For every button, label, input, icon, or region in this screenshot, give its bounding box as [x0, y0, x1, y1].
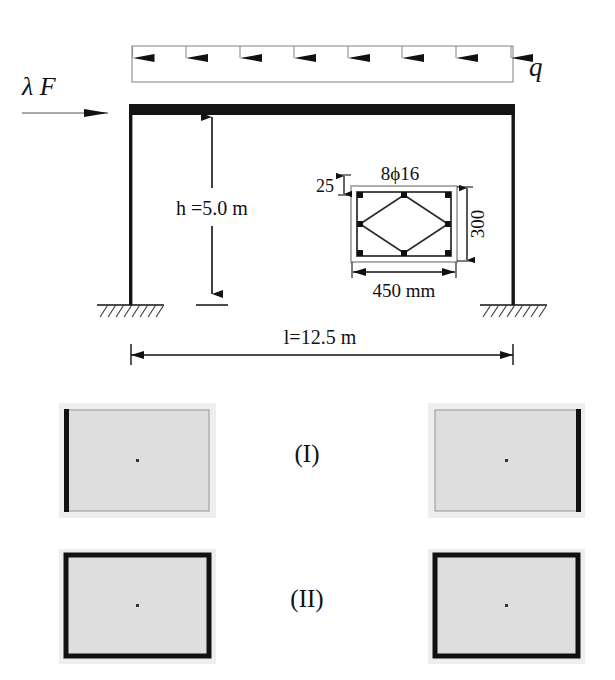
width-dimension-label: 450 mm — [373, 280, 436, 301]
rebar-bottom-left — [357, 250, 363, 256]
distributed-load-group: q — [132, 46, 543, 82]
span-dimension-label: l=12.5 m — [284, 326, 357, 348]
left-panel-row-2 — [59, 549, 216, 664]
right-panel-row-2 — [428, 549, 585, 664]
rebar-bottom-right — [445, 250, 451, 256]
result-row-1: (I) — [59, 403, 585, 518]
frame-right-column — [512, 112, 515, 305]
result-row-2: (II) — [59, 549, 585, 664]
distributed-load-label: q — [529, 52, 543, 82]
rebar-bottom-mid — [401, 250, 407, 256]
depth-dimension: 300 — [457, 187, 488, 261]
rebar-label: 8ϕ16 — [381, 163, 420, 184]
rebar-mid-left — [357, 221, 363, 227]
rebar-top-left — [357, 192, 363, 198]
rebar-top-right — [445, 192, 451, 198]
row-2-label: (II) — [290, 585, 323, 613]
left-fixed-support — [97, 305, 164, 317]
right-panel-row-1-thick-edge — [576, 409, 581, 512]
lateral-force-label: λ F — [21, 72, 57, 101]
section-rebars — [357, 192, 451, 256]
rebar-top-mid — [401, 192, 407, 198]
depth-dimension-label: 300 — [467, 210, 488, 239]
right-fixed-support — [480, 305, 547, 317]
right-panel-row-2-center-dot — [505, 604, 508, 607]
section-diamond-tie — [360, 195, 448, 253]
left-support-hatching — [100, 306, 164, 318]
section-stirrup — [357, 192, 451, 256]
frame-beam — [129, 104, 515, 115]
height-dimension: h =5.0 m — [176, 117, 248, 305]
left-panel-row-1-thick-edge — [64, 409, 69, 512]
right-panel-row-1-center-dot — [505, 459, 508, 462]
left-panel-row-1 — [59, 403, 216, 518]
engineering-figure: q λ F — [0, 0, 615, 680]
left-panel-row-2-center-dot — [136, 604, 139, 607]
frame-left-column — [129, 112, 132, 305]
right-support-hatching — [483, 306, 547, 318]
right-panel-row-1 — [428, 403, 585, 518]
cover-dimension: 25 — [316, 175, 351, 196]
figure-root: q λ F — [0, 0, 615, 680]
row-1-label: (I) — [295, 440, 320, 468]
cover-dimension-label: 25 — [316, 176, 334, 196]
width-dimension: 450 mm — [352, 262, 456, 301]
load-arrows — [133, 46, 512, 58]
height-dimension-label: h =5.0 m — [176, 197, 248, 219]
span-dimension: l=12.5 m — [131, 326, 513, 365]
lateral-force-group: λ F — [21, 72, 108, 113]
cross-section-detail: 8ϕ16 25 300 — [316, 163, 488, 301]
left-panel-row-1-center-dot — [136, 459, 139, 462]
rebar-mid-right — [445, 221, 451, 227]
